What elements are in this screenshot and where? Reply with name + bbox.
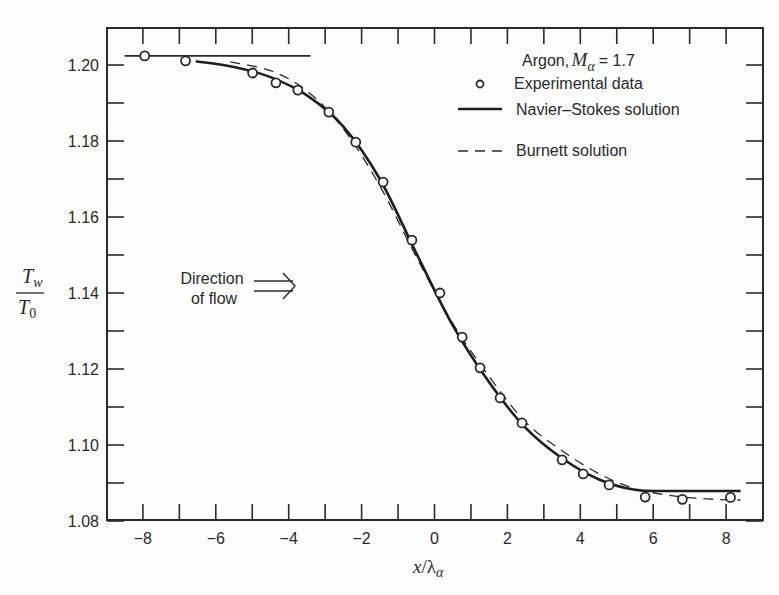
data-point-circle-icon <box>140 51 149 60</box>
data-point-circle-icon <box>458 333 467 342</box>
x-tick-label: 8 <box>722 530 731 547</box>
data-point-circle-icon <box>678 495 687 504</box>
double-right-arrow-icon <box>254 273 295 299</box>
y-tick-label: 1.20 <box>68 57 99 74</box>
data-point-circle-icon <box>293 86 302 95</box>
y-tick-label: 1.16 <box>68 209 99 226</box>
data-point-circle-icon <box>496 393 505 402</box>
navier-stokes-solution-curve <box>196 61 741 491</box>
legend-entry-experimental: Experimental data <box>514 75 643 92</box>
x-tick-label: −2 <box>352 530 370 547</box>
data-point-circle-icon <box>248 68 257 77</box>
data-point-circle-icon <box>476 363 485 372</box>
data-point-circle-icon <box>379 178 388 187</box>
svg-text:Tw: Tw <box>22 265 43 290</box>
x-tick-label: −6 <box>207 530 225 547</box>
legend-title: Argon, Mα= 1.7 <box>522 49 635 74</box>
x-tick-label: 2 <box>503 530 512 547</box>
y-axis-label: Tw T0 <box>16 265 44 321</box>
data-point-circle-icon <box>324 108 333 117</box>
y-tick-label: 1.10 <box>68 437 99 454</box>
direction-of-flow-annotation: Direction of flow <box>180 270 295 307</box>
y-tick-labels: 1.081.101.121.141.161.181.20 <box>68 57 99 530</box>
x-axis-label: x/λα <box>412 556 444 580</box>
legend: Argon, Mα= 1.7 Experimental data Navier–… <box>458 49 680 159</box>
data-point-circle-icon <box>558 455 567 464</box>
data-point-circle-icon <box>579 469 588 478</box>
data-point-circle-icon <box>435 289 444 298</box>
data-point-circle-icon <box>407 236 416 245</box>
x-tick-labels: −8−6−4−202468 <box>134 530 731 547</box>
data-point-circle-icon <box>181 56 190 65</box>
y-tick-label: 1.08 <box>68 513 99 530</box>
data-point-circle-icon <box>351 138 360 147</box>
legend-open-circle-icon <box>477 81 484 88</box>
y-tick-label: 1.14 <box>68 285 99 302</box>
data-point-circle-icon <box>517 418 526 427</box>
y-tick-label: 1.18 <box>68 133 99 150</box>
svg-text:of flow: of flow <box>191 290 238 307</box>
x-tick-label: 0 <box>430 530 439 547</box>
legend-entry-navier-stokes: Navier–Stokes solution <box>516 101 680 118</box>
chart: −8−6−4−202468 1.081.101.121.141.161.181.… <box>0 0 779 595</box>
y-tick-label: 1.12 <box>68 361 99 378</box>
x-tick-label: 6 <box>649 530 658 547</box>
legend-entry-burnett: Burnett solution <box>516 142 627 159</box>
data-point-circle-icon <box>641 493 650 502</box>
data-point-circle-icon <box>605 480 614 489</box>
x-tick-label: −8 <box>134 530 152 547</box>
x-tick-label: 4 <box>576 530 585 547</box>
x-tick-label: −4 <box>280 530 298 547</box>
svg-text:Direction: Direction <box>180 270 243 287</box>
svg-text:T0: T0 <box>18 296 36 321</box>
data-point-circle-icon <box>271 78 280 87</box>
data-point-circle-icon <box>726 493 735 502</box>
burnett-solution-curve <box>230 62 740 500</box>
